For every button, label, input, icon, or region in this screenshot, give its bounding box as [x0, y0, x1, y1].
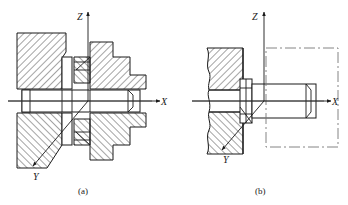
figure-canvas: X Z Y — [0, 0, 348, 205]
axis-y-label-a: Y — [33, 171, 40, 182]
axis-z-label-b: Z — [252, 11, 258, 22]
left-flange-upper-section — [17, 33, 66, 89]
axis-z-a: Z — [77, 11, 88, 101]
center-nut-lower — [74, 119, 90, 145]
plate-upper-section-b — [207, 48, 243, 90]
caption-a: (a) — [78, 186, 88, 196]
plate-lower-section-b — [207, 112, 243, 154]
subfigure-a: X Z Y — [8, 11, 168, 182]
right-housing-lower-section — [90, 113, 146, 160]
left-collar-upper — [62, 57, 72, 89]
axis-x-label-a: X — [160, 96, 168, 107]
axis-y-label-b: Y — [223, 154, 230, 165]
left-flange-lower-section — [17, 113, 62, 168]
left-collar-lower — [62, 113, 72, 145]
axis-x-label-b: X — [331, 96, 339, 107]
right-housing-upper-section — [90, 42, 146, 89]
technical-drawing-svg: X Z Y — [0, 0, 348, 205]
axis-z-label-a: Z — [77, 11, 83, 22]
subfigure-b: X Z Y — [192, 11, 339, 165]
caption-b: (b) — [255, 186, 266, 196]
